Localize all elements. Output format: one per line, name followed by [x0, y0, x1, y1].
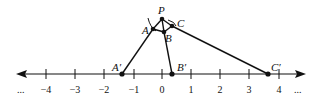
label-C-prime: C′: [271, 61, 281, 73]
point-P: [160, 17, 165, 22]
tick-label: −4: [41, 84, 52, 95]
label-A: A: [141, 24, 149, 36]
point-A: [151, 27, 156, 32]
left-ellipsis: ...: [17, 84, 25, 95]
number-line: −4−3−2−101234 ... ...: [16, 69, 306, 95]
tick-label: 0: [160, 84, 165, 95]
label-C: C: [177, 17, 185, 29]
tick-label: 2: [218, 84, 223, 95]
point-C: [170, 24, 175, 29]
tick-label: −3: [70, 84, 81, 95]
right-ellipsis: ...: [294, 84, 302, 95]
label-P: P: [157, 4, 165, 16]
label-B-prime: B′: [177, 61, 187, 73]
tick-labels: −4−3−2−101234: [41, 84, 282, 95]
tick-label: −1: [129, 84, 140, 95]
projection-diagram: −4−3−2−101234 ... ... P A B C A′ B′: [0, 0, 321, 102]
point-B-prime: [169, 71, 174, 76]
line-C-to-C-prime: [172, 26, 268, 74]
tick-label: −2: [99, 84, 110, 95]
label-A-prime: A′: [111, 61, 122, 73]
tick-label: 1: [189, 84, 194, 95]
tick-label: 3: [247, 84, 252, 95]
point-C-prime: [265, 71, 270, 76]
tick-label: 4: [277, 84, 282, 95]
label-B: B: [165, 32, 172, 44]
